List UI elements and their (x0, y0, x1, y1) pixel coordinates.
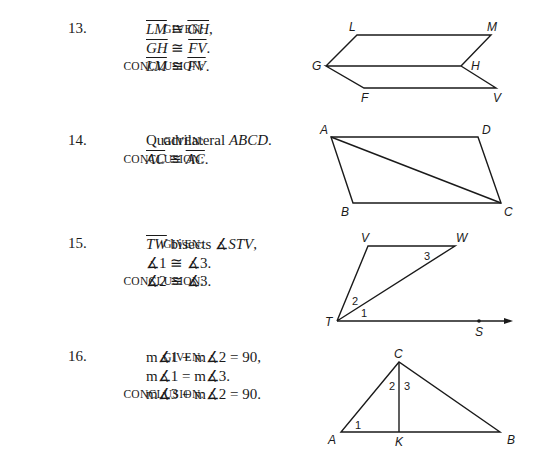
figure-13-label-L: L (349, 20, 356, 34)
figure-15-label-V: V (361, 231, 370, 245)
figure-16-label-B: B (507, 433, 515, 447)
figure-15-point-S (477, 319, 481, 323)
figure-15-label-S: S (475, 325, 483, 339)
figure-14-diagram: A D B C (319, 123, 513, 219)
figure-16-label-C: C (394, 347, 403, 361)
figure-15-angle-1: 1 (361, 307, 367, 319)
figure-16-label-K: K (395, 435, 404, 449)
figure-15-label-T: T (325, 315, 334, 329)
figure-15-label-W: W (456, 231, 469, 245)
figure-16-diagram: C A K B 2 3 1 (327, 347, 515, 449)
figure-14-diagonal-AC (331, 137, 501, 203)
figure-14-label-D: D (482, 123, 491, 137)
figure-14-label-A: A (319, 123, 328, 137)
figures-canvas: L M G H F V A D B C V W T S 3 2 1 C A K … (0, 0, 535, 460)
figure-13-label-H: H (471, 59, 480, 73)
figure-13-label-V: V (493, 91, 502, 105)
figure-13-diagram: L M G H F V (312, 20, 502, 105)
figure-14-label-C: C (504, 205, 513, 219)
figure-15-triangle (337, 246, 455, 321)
figure-16-triangle (341, 362, 500, 432)
figure-14-label-B: B (341, 205, 349, 219)
figure-16-angle-1: 1 (355, 419, 361, 431)
figure-15-angle-3: 3 (424, 250, 430, 262)
figure-15-diagram: V W T S 3 2 1 (325, 231, 513, 339)
figure-16-label-A: A (327, 433, 336, 447)
figure-16-angle-2: 2 (389, 380, 395, 392)
figure-13-label-F: F (361, 91, 369, 105)
figure-15-arrowhead (504, 318, 513, 324)
figure-13-label-G: G (312, 59, 321, 73)
figure-16-angle-3: 3 (404, 380, 410, 392)
figure-15-angle-2: 2 (352, 295, 358, 307)
figure-13-label-M: M (487, 20, 497, 34)
